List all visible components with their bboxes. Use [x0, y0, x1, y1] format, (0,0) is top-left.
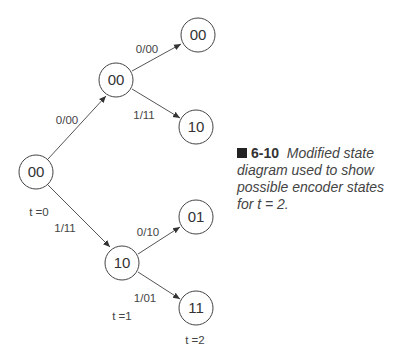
node-label: 11	[188, 299, 204, 316]
caption-square-icon	[237, 148, 247, 158]
node-label: 10	[188, 118, 205, 135]
node-label: 10	[114, 254, 131, 271]
node-label: 00	[28, 163, 45, 180]
node-label: 01	[188, 208, 205, 225]
edge-label: 0/10	[137, 226, 159, 238]
edge-label: 1/01	[134, 292, 156, 304]
edge-label: 1/11	[54, 222, 76, 234]
edge-root-to-bottom	[48, 185, 110, 247]
edge-label: 1/11	[133, 109, 155, 121]
time-label-t0: t =0	[29, 206, 49, 218]
edge-label: 0/00	[136, 43, 158, 55]
time-label-t1: t =1	[112, 310, 132, 322]
figure-number: 6-10	[251, 145, 279, 161]
figure-caption: 6-10 Modified state diagram used to show…	[237, 145, 397, 213]
node-label: 00	[108, 71, 125, 88]
time-label-t2: t =2	[185, 334, 205, 346]
node-label: 00	[190, 26, 207, 43]
edge-root-to-top	[48, 96, 106, 159]
edge-label: 0/00	[56, 114, 78, 126]
